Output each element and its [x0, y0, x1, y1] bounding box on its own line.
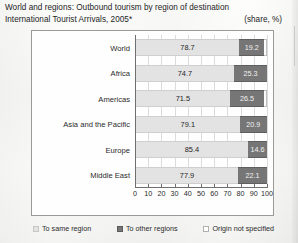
stacked-bar: 71.526.5 [136, 90, 267, 107]
x-tick-label: 60 [210, 189, 218, 198]
legend-item[interactable]: Origin not specified [203, 224, 274, 233]
x-tick-mark [254, 184, 255, 188]
bar-value-label: 78.7 [180, 43, 194, 52]
bar-segment-to-same-region: 85.4 [136, 141, 248, 158]
bar-segment-to-same-region: 77.9 [136, 167, 238, 184]
chart-title-block: World and regions: Outbound tourism by r… [5, 2, 293, 25]
x-tick-mark [241, 184, 242, 188]
bar-value-label: 25.3 [243, 69, 257, 78]
category-label: Americas [98, 94, 130, 103]
x-tick-mark [267, 184, 268, 188]
swatch-dark-gray-icon [117, 226, 123, 232]
x-tick-mark [161, 184, 162, 188]
bar-value-label: 74.7 [178, 69, 192, 78]
bar-segment-to-other-regions: 14.6 [248, 141, 267, 158]
bar-rows: World78.719.2Africa74.725.3Americas71.52… [135, 35, 267, 188]
bar-value-label: 20.9 [246, 120, 260, 129]
x-tick-mark [135, 184, 136, 188]
chart-title-line-1: World and regions: Outbound tourism by r… [5, 2, 293, 14]
bar-row: Asia and the Pacific79.120.9 [135, 116, 267, 133]
scan-edge-rule [294, 26, 295, 66]
x-tick-mark [227, 184, 228, 188]
x-tick-label: 100 [261, 189, 273, 198]
chart-units-note: (share, %) [244, 15, 282, 24]
chart-title-line-2: International Tourist Arrivals, 2005* [5, 14, 132, 26]
legend-label: To same region [42, 224, 91, 233]
bar-row: Africa74.725.3 [135, 65, 267, 82]
bar-segment-to-other-regions: 19.2 [239, 39, 264, 56]
x-tick-label: 80 [237, 189, 245, 198]
x-tick-label: 20 [157, 189, 165, 198]
bar-segment-to-other-regions: 22.1 [238, 167, 267, 184]
category-label: World [110, 43, 130, 52]
plot-area: World78.719.2Africa74.725.3Americas71.52… [135, 35, 267, 188]
x-tick-mark [148, 184, 149, 188]
scan-edge-artifact [292, 0, 298, 243]
x-tick-mark [201, 184, 202, 188]
x-tick-mark [214, 184, 215, 188]
bar-segment-to-same-region: 74.7 [136, 65, 234, 82]
chart-page: World and regions: Outbound tourism by r… [0, 0, 298, 243]
gridline [267, 35, 268, 188]
category-label: Middle East [90, 171, 130, 180]
bar-value-label: 85.4 [185, 145, 199, 154]
legend-label: To other regions [126, 224, 178, 233]
chart-legend: To same regionTo other regionsOrigin not… [33, 224, 274, 233]
stacked-bar: 79.120.9 [136, 116, 267, 133]
bar-segment-to-same-region: 79.1 [136, 116, 240, 133]
bar-segment-to-same-region: 78.7 [136, 39, 239, 56]
bar-segment-to-other-regions: 26.5 [230, 90, 265, 107]
x-tick-label: 40 [184, 189, 192, 198]
x-axis-ticks: 0102030405060708090100 [135, 189, 267, 207]
x-tick-label: 30 [171, 189, 179, 198]
bar-value-label: 71.5 [176, 94, 190, 103]
x-tick-label: 10 [144, 189, 152, 198]
bar-segment-to-same-region: 71.5 [136, 90, 230, 107]
bar-value-label: 79.1 [181, 120, 195, 129]
chart-frame: World78.719.2Africa74.725.3Americas71.52… [31, 30, 274, 216]
bar-row: Americas71.526.5 [135, 90, 267, 107]
category-label: Asia and the Pacific [63, 120, 130, 129]
bar-row: Europe85.414.6 [135, 141, 267, 158]
bar-segment-to-other-regions: 20.9 [240, 116, 267, 133]
bar-value-label: 19.2 [245, 43, 259, 52]
bar-value-label: 22.1 [246, 171, 260, 180]
legend-item[interactable]: To same region [33, 224, 91, 233]
x-tick-label: 90 [250, 189, 258, 198]
bar-segment-origin-not-specified [264, 90, 267, 107]
category-label: Africa [111, 69, 130, 78]
legend-label: Origin not specified [212, 224, 274, 233]
bar-row: World78.719.2 [135, 39, 267, 56]
stacked-bar: 74.725.3 [136, 65, 267, 82]
swatch-light-gray-icon [33, 226, 39, 232]
swatch-white-icon [203, 226, 209, 232]
x-tick-label: 50 [197, 189, 205, 198]
bar-value-label: 77.9 [180, 171, 194, 180]
stacked-bar: 85.414.6 [136, 141, 267, 158]
bar-segment-origin-not-specified [264, 39, 267, 56]
x-tick-mark [188, 184, 189, 188]
x-tick-label: 0 [133, 189, 137, 198]
legend-item[interactable]: To other regions [117, 224, 178, 233]
bar-segment-to-other-regions: 25.3 [234, 65, 267, 82]
category-label: Europe [106, 145, 131, 154]
bar-value-label: 26.5 [240, 94, 254, 103]
x-tick-mark [175, 184, 176, 188]
bar-row: Middle East77.922.1 [135, 167, 267, 184]
stacked-bar: 78.719.2 [136, 39, 267, 56]
bar-value-label: 14.6 [250, 145, 264, 154]
stacked-bar: 77.922.1 [136, 167, 267, 184]
x-tick-label: 70 [223, 189, 231, 198]
